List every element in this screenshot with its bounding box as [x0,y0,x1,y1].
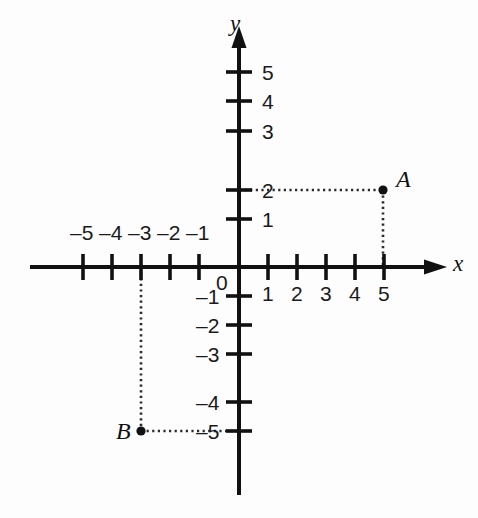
point-label-a: A [396,167,411,191]
x-tick-label-minus5: –5 [70,222,93,243]
x-axis-label: x [453,252,463,275]
guide-lines-point-a [239,190,383,267]
x-tick-label-minus4: –4 [99,222,122,243]
y-tick-label-minus2: –2 [196,315,219,336]
x-tick-label-minus2: –2 [157,222,180,243]
y-tick-label-4: 4 [262,91,274,112]
y-tick-label-minus1: –1 [196,286,219,307]
y-tick-label-1: 1 [262,209,274,230]
x-tick-label-minus1: –1 [186,222,209,243]
x-tick-label-3: 3 [320,283,332,304]
data-point-a [378,185,387,194]
x-tick-label-4: 4 [349,283,361,304]
y-tick-label-minus5: –5 [196,421,219,442]
point-label-b: B [116,419,131,443]
y-tick-label-minus3: –3 [196,344,219,365]
y-tick-label-2: 2 [262,180,274,201]
coordinate-plane-figure: x y 0 –5 –4 –3 –2 –1 1 2 3 4 5 5 4 3 2 1… [0,0,478,518]
x-tick-label-5: 5 [378,283,390,304]
x-tick-label-2: 2 [291,283,303,304]
x-axis-arrowhead [424,260,447,275]
y-tick-label-5: 5 [262,62,274,83]
x-tick-label-minus3: –3 [128,222,151,243]
y-tick-label-minus4: –4 [196,392,219,413]
y-axis-label: y [230,12,240,35]
x-tick-label-1: 1 [262,283,274,304]
y-tick-label-3: 3 [262,121,274,142]
data-point-b [136,426,145,435]
coordinate-plane-svg [0,0,478,518]
